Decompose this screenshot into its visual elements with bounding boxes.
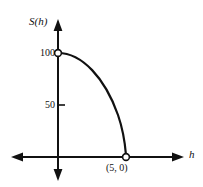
- function-curve: [58, 53, 126, 155]
- x-intercept-point-label: (5, 0): [106, 163, 128, 173]
- graph-figure: S(h) h 100 50 (5, 0): [0, 0, 203, 187]
- x-axis-right-arrow-icon: [172, 153, 184, 162]
- y-axis-label: S(h): [29, 16, 47, 27]
- open-point-marker-100: [55, 50, 62, 57]
- open-point-marker-5-0: [123, 154, 130, 161]
- coordinate-plot: [0, 0, 203, 187]
- y-axis-down-arrow-icon: [54, 169, 63, 181]
- y-axis-up-arrow-icon: [54, 19, 63, 31]
- x-axis-label: h: [189, 149, 195, 160]
- x-axis-left-arrow-icon: [11, 153, 23, 162]
- y-tick-label-50: 50: [33, 100, 55, 110]
- y-tick-label-100: 100: [27, 48, 55, 58]
